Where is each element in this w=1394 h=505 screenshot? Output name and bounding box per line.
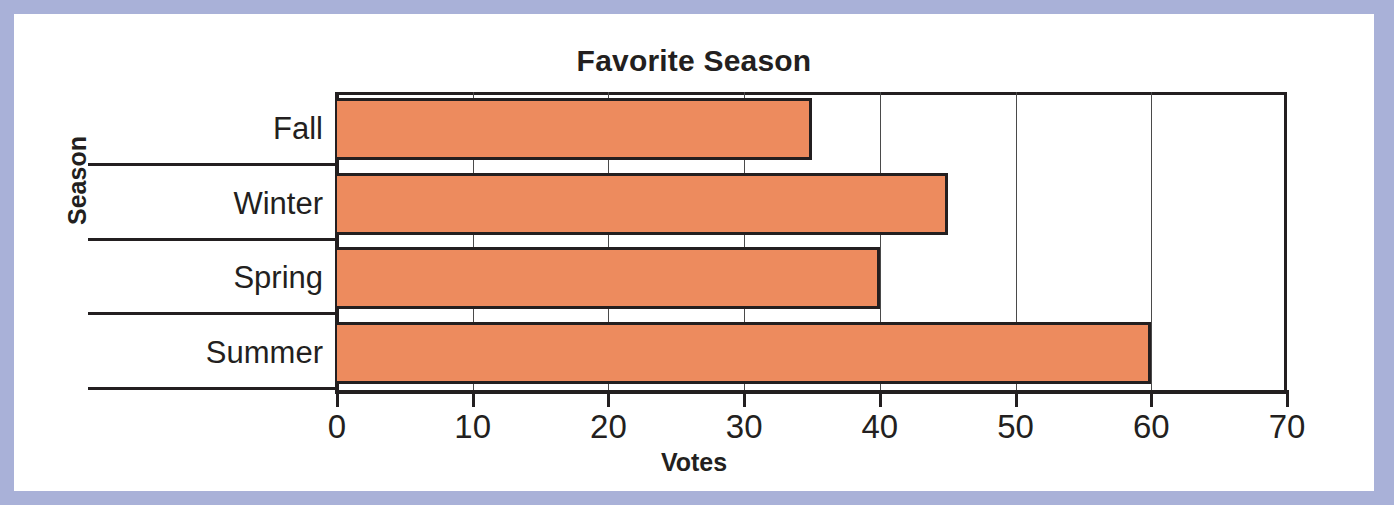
x-tick [743,392,746,407]
x-tick-label: 70 [1247,408,1327,446]
x-tick [336,392,339,407]
y-category-label-spring: Spring [84,260,337,296]
x-tick [472,392,475,407]
x-tick-label: 40 [840,408,920,446]
plot-area: 010203040506070 [337,92,1287,390]
x-tick [1286,392,1289,407]
y-category-label-fall: Fall [84,111,337,147]
y-category-separator [88,163,337,166]
y-category-separator [88,312,337,315]
x-tick [1015,392,1018,407]
x-tick [607,392,610,407]
x-tick-label: 0 [297,408,377,446]
chart-figure: Favorite Season Season FallWinterSpringS… [14,14,1374,491]
x-axis-title: Votes [14,448,1374,477]
x-tick-label: 10 [433,408,513,446]
y-category-separator [88,238,337,241]
bar-spring [337,247,880,309]
bar-fall [337,98,812,160]
bar-summer [337,322,1151,384]
bar-winter [337,173,948,235]
gridline [1151,92,1152,390]
y-category-label-winter: Winter [84,186,337,222]
x-tick [879,392,882,407]
x-tick-label: 30 [704,408,784,446]
x-tick-label: 20 [568,408,648,446]
x-tick [1150,392,1153,407]
x-tick-label: 50 [976,408,1056,446]
chart-title: Favorite Season [14,44,1374,78]
y-category-separator [88,387,337,390]
x-tick-label: 60 [1111,408,1191,446]
x-axis-line [335,390,1289,394]
y-category-label-summer: Summer [84,335,337,371]
